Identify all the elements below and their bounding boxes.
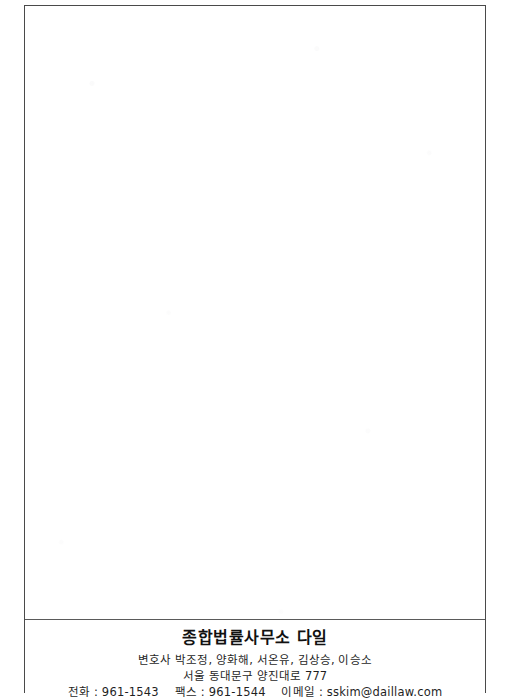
email-label: 이메일 : [281,685,323,699]
document-body-blank [25,6,485,619]
phone-label: 전화 : [68,685,98,699]
firm-name: 종합법률사무소 다일 [25,628,485,648]
office-address: 서울 동대문구 양진대로 777 [25,668,485,684]
contact-line: 전화 : 961-1543 팩스 : 961-1544 이메일 : sskim@… [25,684,485,700]
fax-label: 팩스 : [175,685,205,699]
phone-number: 961-1543 [102,685,159,699]
letterhead-footer: 종합법률사무소 다일 변호사 박조정, 양화해, 서온유, 김상승, 이승소 서… [25,620,485,700]
lawyer-names-line: 변호사 박조정, 양화해, 서온유, 김상승, 이승소 [25,652,485,668]
email-address: sskim@daillaw.com [327,685,443,699]
page-frame-border: 종합법률사무소 다일 변호사 박조정, 양화해, 서온유, 김상승, 이승소 서… [24,5,486,693]
fax-number: 961-1544 [209,685,266,699]
